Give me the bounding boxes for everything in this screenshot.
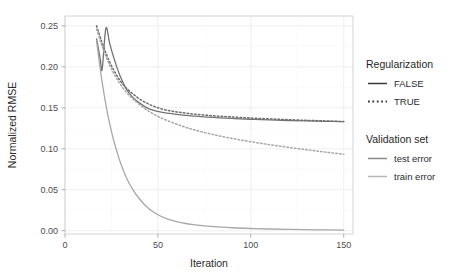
- y-tick-label-3: 0.15: [40, 103, 58, 113]
- chart-figure: 050100150 0.000.050.100.150.200.25 Itera…: [0, 0, 458, 274]
- legend-title-1: Validation set: [366, 133, 428, 145]
- x-tick-label-2: 100: [243, 240, 258, 250]
- legend: RegularizationFALSETRUEValidation settes…: [366, 58, 435, 182]
- legend-label-1-1[interactable]: train error: [394, 171, 435, 182]
- rmse-line-chart: 050100150 0.000.050.100.150.200.25 Itera…: [0, 0, 458, 274]
- y-tick-label-5: 0.25: [40, 21, 58, 31]
- y-axis-title: Normalized RMSE: [6, 82, 18, 168]
- y-tick-label-0: 0.00: [40, 226, 58, 236]
- legend-label-0-0[interactable]: FALSE: [394, 78, 424, 89]
- panel: [65, 16, 353, 234]
- x-tick-label-3: 150: [336, 240, 351, 250]
- x-tick-label-1: 50: [153, 240, 163, 250]
- x-axis-title: Iteration: [190, 257, 228, 269]
- y-tick-label-4: 0.20: [40, 62, 58, 72]
- x-tick-label-0: 0: [62, 240, 67, 250]
- y-tick-label-1: 0.05: [40, 185, 58, 195]
- legend-title-0: Regularization: [366, 58, 433, 70]
- y-axis-ticks: 0.000.050.100.150.200.25: [40, 21, 65, 236]
- x-axis-ticks: 050100150: [62, 234, 351, 250]
- y-tick-label-2: 0.10: [40, 144, 58, 154]
- legend-label-0-1[interactable]: TRUE: [394, 96, 420, 107]
- legend-label-1-0[interactable]: test error: [394, 153, 432, 164]
- panel-background: [65, 16, 353, 234]
